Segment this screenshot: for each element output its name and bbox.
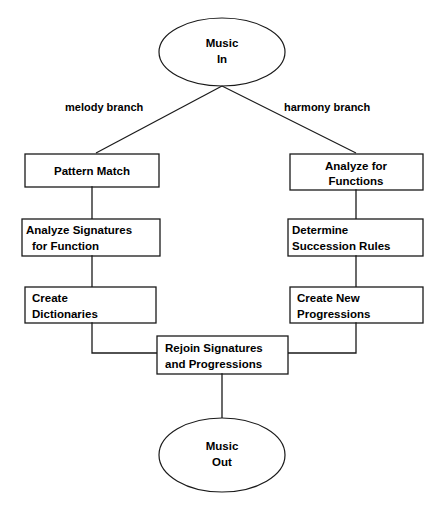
node-music-in[interactable]: Music In xyxy=(159,18,285,86)
create-dictionaries-label-line1: Create xyxy=(32,292,68,304)
determine-succession-label-line1: Determine xyxy=(292,224,348,236)
create-progressions-label-line2: Progressions xyxy=(297,308,371,320)
create-progressions-label-line1: Create New xyxy=(297,292,360,304)
create-dictionaries-label-line2: Dictionaries xyxy=(32,308,98,320)
music-out-label-line2: Out xyxy=(212,456,232,468)
music-in-label-line2: In xyxy=(217,53,227,65)
node-create-progressions[interactable]: Create New Progressions xyxy=(290,287,423,323)
rejoin-label-line1: Rejoin Signatures xyxy=(165,342,263,354)
connector-progressions-to-rejoin xyxy=(288,323,356,353)
node-analyze-functions[interactable]: Analyze for Functions xyxy=(290,154,423,190)
flowchart-canvas: Music In melody branch harmony branch Pa… xyxy=(0,0,445,506)
node-rejoin[interactable]: Rejoin Signatures and Progressions xyxy=(157,336,288,374)
analyze-functions-label-line2: Functions xyxy=(329,175,384,187)
music-in-label-line1: Music xyxy=(206,37,239,49)
analyze-signatures-label-line2: for Function xyxy=(32,240,99,252)
rejoin-label-line2: and Progressions xyxy=(165,358,262,370)
melody-branch-label: melody branch xyxy=(65,101,144,113)
music-out-ellipse xyxy=(159,418,285,492)
harmony-branch-line xyxy=(222,86,356,153)
node-determine-succession[interactable]: Determine Succession Rules xyxy=(288,219,423,256)
music-out-label-line1: Music xyxy=(206,440,239,452)
music-flowchart-svg: Music In melody branch harmony branch Pa… xyxy=(0,0,445,506)
node-analyze-signatures[interactable]: Analyze Signatures for Function xyxy=(22,219,160,256)
connector-dictionaries-to-rejoin xyxy=(92,323,157,353)
pattern-match-label-line1: Pattern Match xyxy=(54,165,130,177)
determine-succession-label-line2: Succession Rules xyxy=(292,240,390,252)
node-pattern-match[interactable]: Pattern Match xyxy=(25,154,159,187)
node-music-out[interactable]: Music Out xyxy=(159,418,285,492)
harmony-branch-label: harmony branch xyxy=(284,101,370,113)
analyze-functions-label-line1: Analyze for xyxy=(325,160,388,172)
node-create-dictionaries[interactable]: Create Dictionaries xyxy=(25,287,156,323)
analyze-signatures-label-line1: Analyze Signatures xyxy=(26,224,132,236)
music-in-ellipse xyxy=(159,18,285,86)
melody-branch-line xyxy=(96,86,222,153)
